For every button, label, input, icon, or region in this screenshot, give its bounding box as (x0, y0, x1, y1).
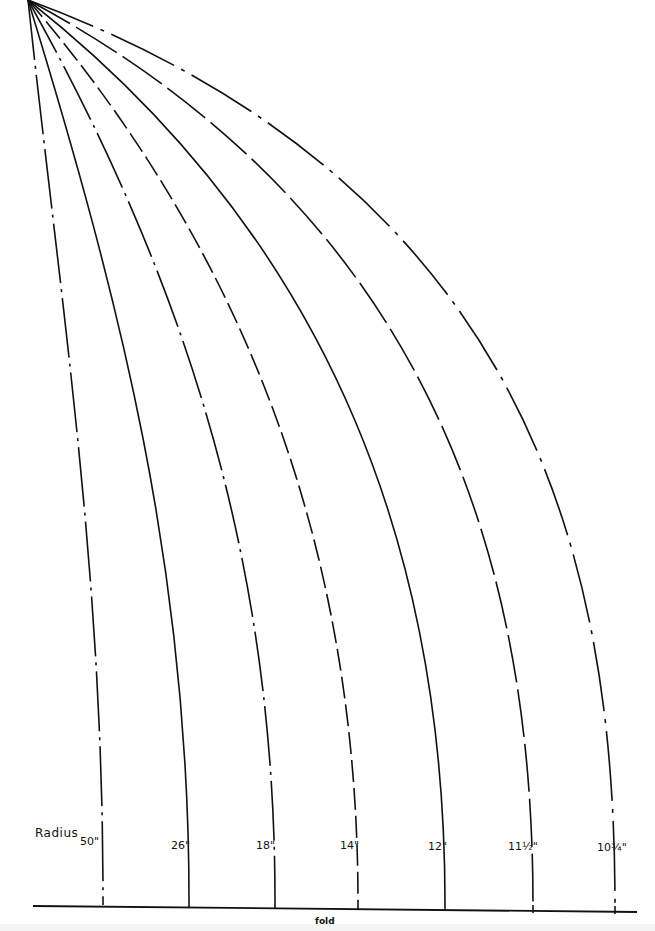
curve-label-26: 26" (171, 840, 190, 851)
radius-title: Radius (35, 826, 78, 840)
radius-curves (28, 0, 615, 914)
curve-label-50: 50" (80, 836, 99, 847)
radius-curve-3 (28, 0, 358, 902)
curve-label-10-three-quarter: 10¾" (597, 842, 627, 853)
curve-label-12: 12" (428, 841, 447, 852)
scan-bottom-band (0, 924, 655, 931)
curve-label-18: 18" (256, 840, 275, 851)
radius-curve-4 (28, 0, 445, 903)
radius-curve-2 (28, 0, 275, 900)
fold-baseline (33, 906, 637, 912)
radius-curve-1 (28, 0, 189, 899)
curve-label-11-half: 11½" (508, 841, 538, 852)
curve-label-14: 14" (340, 840, 359, 851)
curve-template-diagram (0, 0, 655, 931)
radius-curve-5 (28, 0, 533, 905)
radius-curve-0 (28, 0, 103, 897)
